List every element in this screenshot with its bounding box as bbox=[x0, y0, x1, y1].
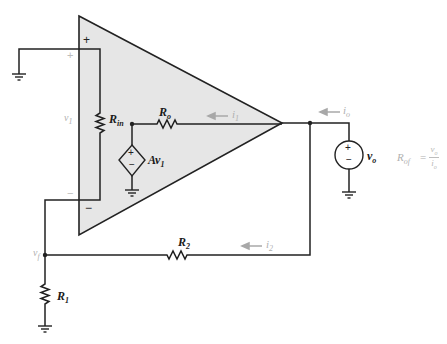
ro-label: Ro bbox=[159, 106, 171, 121]
r2-label: R2 bbox=[178, 236, 190, 251]
rin-label: Rin bbox=[109, 113, 124, 128]
r1-resistor bbox=[41, 255, 49, 326]
arrow-left-icon bbox=[242, 243, 262, 249]
arrow-left-icon bbox=[320, 109, 340, 115]
ground-icon bbox=[342, 192, 356, 198]
v1-minus-sign: − bbox=[67, 188, 73, 199]
amp-plus-sign: + bbox=[83, 34, 90, 46]
vo-source-plus: + bbox=[345, 143, 351, 153]
formula-numerator: vo bbox=[431, 145, 438, 156]
r2-resistor bbox=[45, 251, 190, 259]
circuit-diagram: + − + − Rin Ro Av1 + − R2 R1 vo + − v1 v… bbox=[0, 0, 447, 344]
amp-minus-sign: − bbox=[85, 202, 92, 214]
i1-current-label: i1 bbox=[232, 109, 239, 123]
vf-node-label: vf bbox=[33, 248, 40, 261]
formula-lhs: Rof bbox=[397, 152, 410, 166]
formula-denominator: io bbox=[431, 159, 437, 170]
ground-icon bbox=[38, 326, 52, 332]
r1-label: R1 bbox=[57, 290, 69, 305]
v1-plus-sign: + bbox=[67, 50, 73, 61]
dep-source-minus: − bbox=[129, 160, 135, 170]
v1-node-label: v1 bbox=[64, 113, 72, 126]
output-wire bbox=[282, 123, 349, 141]
vo-source-label: vo bbox=[367, 150, 376, 165]
i2-current-label: i2 bbox=[266, 239, 273, 253]
vo-source-minus: − bbox=[346, 155, 352, 165]
dep-source-plus: + bbox=[128, 148, 134, 158]
formula-equals: = bbox=[420, 152, 426, 163]
dependent-source-label: Av1 bbox=[148, 154, 164, 169]
io-current-label: io bbox=[343, 105, 350, 119]
ground-icon bbox=[12, 74, 26, 80]
formula-fraction: vo io bbox=[429, 145, 439, 170]
